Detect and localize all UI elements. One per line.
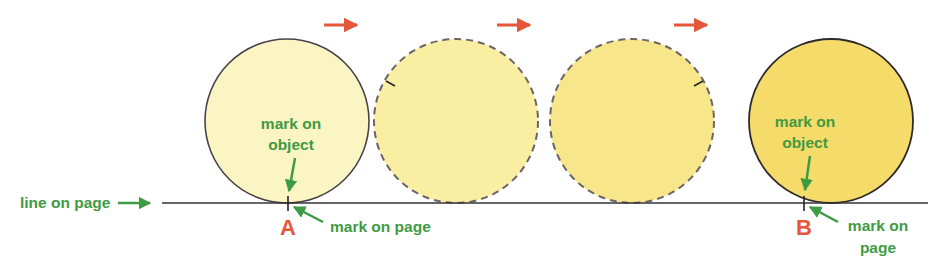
point-a-label: A	[280, 215, 296, 240]
rolling-circle-diagram: line on page mark on object mark on page…	[0, 0, 942, 266]
mark-on-page-label-b2: page	[860, 239, 897, 256]
point-b-label: B	[796, 215, 812, 240]
mark-on-page-label-b1: mark on	[848, 217, 908, 234]
line-on-page-label: line on page	[20, 194, 111, 211]
mark-on-page-arrow-a	[294, 207, 323, 222]
mark-on-object-label-2b: object	[782, 134, 828, 151]
circle-rolling-2	[550, 39, 714, 203]
circle-rolling-1	[374, 39, 538, 203]
mark-on-object-label-1b: object	[268, 136, 314, 153]
mark-on-object-label-2a: mark on	[775, 113, 835, 130]
mark-on-page-label-a: mark on page	[330, 218, 431, 235]
mark-on-page-arrow-b	[810, 207, 838, 222]
mark-on-object-label-1a: mark on	[261, 115, 321, 132]
